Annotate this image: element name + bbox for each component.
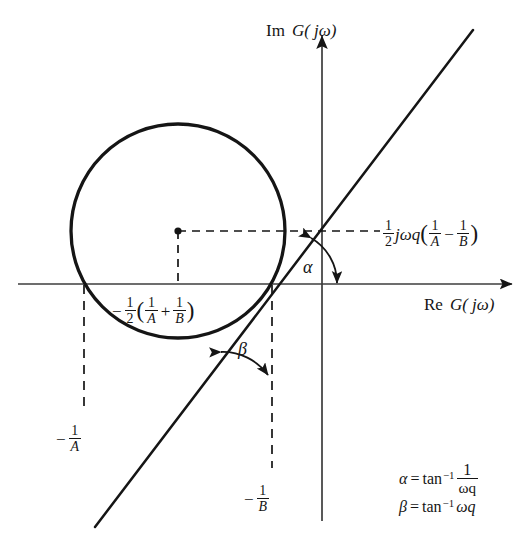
half-fraction: 1 2 (383, 219, 394, 249)
equation-alpha-argument-fraction: 1 ωq (457, 462, 479, 496)
one-over-B-numerator: 1 (174, 296, 185, 310)
tangent-line (95, 30, 473, 527)
one-over-B-numerator: 1 (458, 219, 469, 233)
one-over-A-numerator: 1 (430, 219, 441, 233)
equation-beta-lhs: β (399, 499, 410, 516)
open-paren: ( (137, 302, 145, 320)
equation-beta: β = tan −1 ωq (399, 499, 479, 516)
plus-operator: + (159, 303, 173, 320)
close-paren: ) (470, 225, 478, 243)
circle-center-value: − 1 2 ( 1 A + 1 B ) (112, 296, 194, 326)
real-axis-label-function: G (450, 295, 462, 314)
equation-alpha-argument-numerator: 1 (461, 462, 473, 478)
angle-definitions-block: α = tan −1 1 ωq β = tan −1 ωq (399, 462, 479, 519)
equation-alpha-argument-denominator: ωq (457, 478, 479, 496)
half-fraction: 1 2 (125, 296, 136, 326)
imaginary-axis-label-function: G (292, 21, 304, 40)
equation-alpha-exponent: −1 (442, 470, 456, 481)
one-over-B-fraction: 1 B (257, 484, 270, 514)
one-over-B-numerator: 1 (257, 484, 268, 498)
imaginary-axis-label: ImG( jω) (266, 22, 336, 39)
one-over-A-denominator: A (69, 438, 82, 454)
equation-beta-function: tan (422, 499, 442, 516)
one-over-A-fraction: 1 A (145, 296, 158, 326)
leading-minus: − (112, 303, 124, 320)
angle-alpha-label: α (303, 258, 312, 276)
leading-minus: − (244, 491, 256, 508)
one-over-A-numerator: 1 (146, 296, 157, 310)
one-over-A-denominator: A (429, 233, 442, 249)
minus-operator: − (442, 226, 456, 243)
tick-label-minus-one-over-A: − 1 A (56, 424, 82, 454)
open-paren: ( (420, 225, 428, 243)
one-over-B-denominator: B (457, 233, 470, 249)
equation-beta-equals: = (410, 499, 422, 516)
equation-alpha-equals: = (410, 471, 422, 488)
half-numerator: 1 (383, 219, 394, 233)
one-over-B-denominator: B (173, 310, 186, 326)
one-over-A-denominator: A (145, 310, 158, 326)
equation-beta-exponent: −1 (442, 498, 456, 509)
imaginary-offset-value: 1 2 jωq ( 1 A − 1 B ) (382, 219, 478, 249)
real-axis-label-prefix: Re (424, 295, 443, 314)
angle-beta-label: β (238, 340, 247, 358)
figure-canvas: ImG( jω) ReG( jω) 1 2 jωq ( 1 A − 1 B ) … (0, 0, 530, 558)
one-over-B-denominator: B (257, 498, 270, 514)
equation-alpha: α = tan −1 1 ωq (399, 462, 479, 496)
jwq-factor: jωq (395, 226, 420, 243)
half-numerator: 1 (125, 296, 136, 310)
half-denominator: 2 (383, 233, 394, 249)
real-axis-label: ReG( jω) (424, 296, 494, 313)
real-axis-label-argument: ( jω) (462, 295, 494, 314)
equation-beta-argument: ωq (455, 499, 475, 516)
equation-alpha-function: tan (422, 471, 442, 488)
one-over-B-fraction: 1 B (457, 219, 470, 249)
half-denominator: 2 (125, 310, 136, 326)
imaginary-axis-label-prefix: Im (266, 21, 285, 40)
one-over-A-fraction: 1 A (429, 219, 442, 249)
equation-alpha-lhs: α (399, 471, 410, 488)
one-over-A-numerator: 1 (69, 424, 80, 438)
alpha-angle-arc (311, 238, 337, 283)
leading-minus: − (56, 431, 68, 448)
tick-label-minus-one-over-B: − 1 B (244, 484, 270, 514)
one-over-B-fraction: 1 B (173, 296, 186, 326)
close-paren: ) (187, 302, 195, 320)
imaginary-axis-label-argument: ( jω) (304, 21, 336, 40)
one-over-A-fraction: 1 A (69, 424, 82, 454)
